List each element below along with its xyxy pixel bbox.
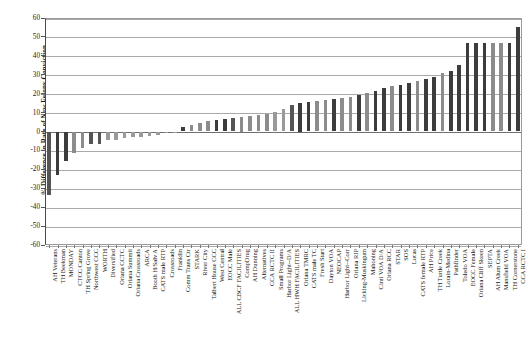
x-tick-label: Oriana RIP bbox=[353, 249, 359, 278]
x-tick-label: Cinti VOA D/A bbox=[378, 249, 384, 289]
x-tick-mark bbox=[158, 245, 159, 248]
x-tick-mark bbox=[401, 245, 402, 248]
x-tick-label: Crossroads bbox=[169, 249, 175, 277]
x-tick-label: Mansfield VOA bbox=[503, 249, 509, 290]
y-tick-mark bbox=[41, 207, 45, 208]
bar bbox=[114, 132, 118, 140]
bar bbox=[516, 27, 520, 131]
bar bbox=[173, 132, 177, 133]
bar bbox=[315, 101, 319, 131]
x-tick-label: West Central bbox=[219, 249, 225, 282]
x-tick-label: TH Turtle Creek bbox=[437, 249, 443, 291]
x-tick-label: STAR bbox=[395, 249, 401, 265]
x-tick-mark bbox=[150, 245, 151, 248]
bar bbox=[390, 86, 394, 131]
bar bbox=[416, 81, 420, 131]
x-tick-label: MONDAY bbox=[68, 249, 74, 277]
bar bbox=[466, 43, 470, 132]
x-tick-label: Licking-Muskingum bbox=[361, 249, 367, 302]
x-tick-mark bbox=[141, 245, 142, 248]
x-tick-mark bbox=[166, 245, 167, 248]
x-tick-label: SEPTA bbox=[487, 249, 493, 268]
x-tick-label: Oriana Cliff Skeen bbox=[478, 249, 484, 297]
x-tick-label: EOCC Female bbox=[470, 249, 476, 286]
x-tick-mark bbox=[242, 245, 243, 248]
y-tick-label: 60 bbox=[10, 14, 40, 22]
x-tick-label: ARCA bbox=[144, 249, 150, 267]
x-tick-label: WORTH bbox=[102, 249, 108, 272]
x-tick-label: AH Veterans bbox=[52, 249, 58, 282]
bar bbox=[265, 114, 269, 131]
x-tick-mark bbox=[49, 245, 50, 248]
bar bbox=[432, 77, 436, 132]
y-tick-label: 10 bbox=[10, 109, 40, 117]
bar bbox=[106, 132, 110, 140]
x-tick-mark bbox=[468, 245, 469, 248]
x-tick-mark bbox=[317, 245, 318, 248]
y-tick-mark bbox=[41, 131, 45, 132]
x-tick-label: Oriana CCTC bbox=[119, 249, 125, 285]
x-tick-mark bbox=[200, 245, 201, 248]
x-tick-label: AH Price bbox=[428, 249, 434, 273]
bar bbox=[190, 125, 194, 132]
x-tick-mark bbox=[58, 245, 59, 248]
y-tick-label: 20 bbox=[10, 90, 40, 98]
bar bbox=[131, 132, 135, 138]
x-tick-label: Comm Trans Ctr bbox=[185, 249, 191, 292]
bar bbox=[491, 43, 495, 132]
x-tick-label: SOS bbox=[403, 249, 409, 261]
x-tick-label: Mahoning bbox=[370, 249, 376, 275]
x-tick-mark bbox=[376, 245, 377, 248]
x-tick-mark bbox=[484, 245, 485, 248]
y-tick-mark bbox=[41, 150, 45, 151]
bar bbox=[282, 109, 286, 132]
bar bbox=[349, 97, 353, 132]
bar bbox=[98, 132, 102, 144]
x-tick-label: Fresh Start bbox=[319, 249, 325, 277]
x-tick-label: Booth H/Salv A bbox=[152, 249, 158, 290]
y-tick-mark bbox=[41, 112, 45, 113]
x-tick-mark bbox=[367, 245, 368, 248]
bar bbox=[441, 73, 445, 132]
bar bbox=[332, 99, 336, 131]
x-tick-mark bbox=[83, 245, 84, 248]
y-tick-mark bbox=[41, 18, 45, 19]
bar bbox=[89, 132, 93, 144]
x-tick-label: Oriana RCC bbox=[386, 249, 392, 281]
x-tick-mark bbox=[208, 245, 209, 248]
x-tick-mark bbox=[292, 245, 293, 248]
bar bbox=[156, 132, 160, 136]
x-tick-label: ALL CBCF FACILITIES bbox=[236, 249, 242, 314]
bar bbox=[206, 121, 210, 131]
x-tick-mark bbox=[284, 245, 285, 248]
y-tick-label: 30 bbox=[10, 71, 40, 79]
x-tick-mark bbox=[350, 245, 351, 248]
x-tick-label: CompDrug bbox=[244, 249, 250, 278]
bar bbox=[181, 127, 185, 132]
x-tick-mark bbox=[99, 245, 100, 248]
bar bbox=[399, 85, 403, 131]
x-tick-label: Franklin bbox=[177, 249, 183, 271]
bar bbox=[240, 117, 244, 131]
bar bbox=[81, 132, 85, 148]
x-tick-label: STARK bbox=[194, 249, 200, 269]
bar bbox=[457, 65, 461, 131]
x-tick-mark bbox=[133, 245, 134, 248]
x-tick-label: Lucas bbox=[411, 249, 417, 264]
bar bbox=[499, 43, 503, 132]
y-tick-mark bbox=[41, 188, 45, 189]
bar bbox=[365, 93, 369, 132]
y-tick-label: 0 bbox=[10, 128, 40, 136]
bar bbox=[298, 103, 302, 131]
bar bbox=[148, 132, 152, 137]
x-tick-label: TH Spring Grove bbox=[85, 249, 91, 294]
bar bbox=[257, 115, 261, 131]
bar bbox=[273, 112, 277, 132]
x-tick-label: River City bbox=[202, 249, 208, 276]
y-tick-mark bbox=[41, 36, 45, 37]
x-tick-mark bbox=[175, 245, 176, 248]
x-tick-mark bbox=[191, 245, 192, 248]
y-tick-mark bbox=[41, 245, 45, 246]
x-tick-mark bbox=[325, 245, 326, 248]
x-tick-mark bbox=[443, 245, 444, 248]
